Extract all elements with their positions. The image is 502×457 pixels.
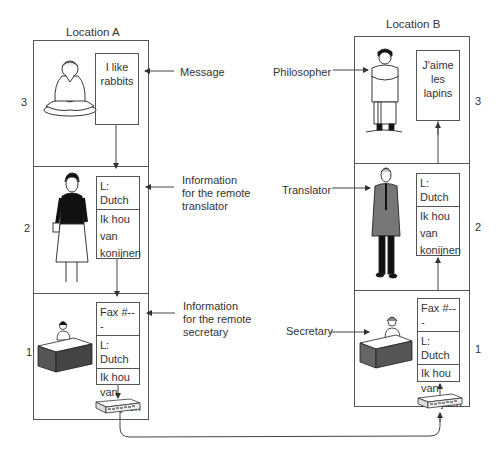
secretary-at-desk-icon [38, 322, 92, 373]
fax-machine-a-icon [96, 399, 140, 413]
fax-machine-b-icon [418, 394, 462, 408]
meditating-philosopher-icon [44, 61, 96, 116]
standing-philosopher-icon [366, 49, 402, 132]
female-translator-icon [53, 173, 88, 282]
male-translator-icon [372, 168, 400, 278]
diagram-graphics [0, 0, 502, 457]
phone-line [120, 412, 440, 437]
secretary-at-desk-icon-b [360, 317, 412, 368]
